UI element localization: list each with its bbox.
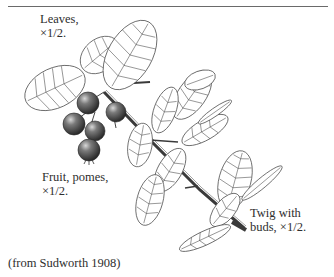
leaves-label: Leaves, ×1/2. <box>40 12 79 40</box>
fruit-label: Fruit, pomes, ×1/2. <box>42 170 108 198</box>
leaves-label-line2: ×1/2. <box>40 26 79 40</box>
twig-label: Twig with buds, ×1/2. <box>250 206 306 234</box>
leaves-label-line1: Leaves, <box>40 12 79 26</box>
twig-label-line1: Twig with <box>250 206 306 220</box>
botanical-illustration <box>0 0 334 277</box>
twig-label-line2: buds, ×1/2. <box>250 220 306 234</box>
fruit-label-line1: Fruit, pomes, <box>42 170 108 184</box>
leaves <box>18 11 286 256</box>
fruit-cluster <box>63 92 126 165</box>
fruit-label-line2: ×1/2. <box>42 184 108 198</box>
source-credit: (from Sudworth 1908) <box>8 256 121 270</box>
